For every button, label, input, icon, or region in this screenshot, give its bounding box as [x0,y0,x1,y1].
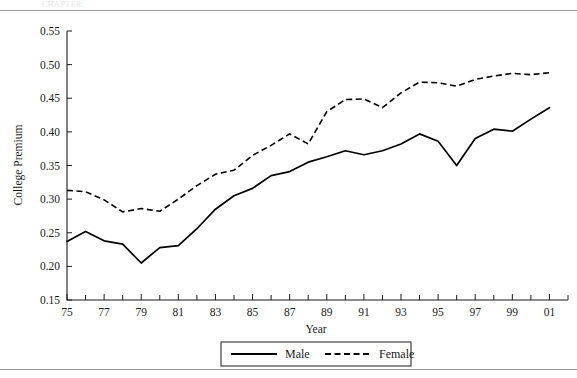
y-tick-label: 0.40 [40,126,60,138]
line-chart: 0.150.200.250.300.350.400.450.500.55 757… [0,0,577,378]
y-axis-title: College Premium [12,125,25,206]
ticks-group [67,31,568,300]
x-tick-label: 79 [135,306,147,318]
x-tick-label: 87 [284,306,296,318]
x-tick-label: 83 [210,306,222,318]
x-tick-label: 01 [544,306,556,318]
y-tick-label: 0.15 [40,294,60,306]
y-tick-label: 0.45 [40,92,60,104]
x-tick-label: 97 [469,306,481,318]
figure-container: CHAPTER 0.150.200.250.300.350.400.450.50… [0,0,577,378]
x-tick-label: 81 [173,306,185,318]
y-axis-tick-labels: 0.150.200.250.300.350.400.450.500.55 [40,25,60,306]
x-tick-label: 77 [98,306,110,318]
x-tick-label: 91 [358,306,370,318]
y-tick-label: 0.35 [40,160,60,172]
legend: Male Female [221,342,414,366]
y-tick-label: 0.55 [40,25,60,37]
y-tick-label: 0.20 [40,260,60,272]
x-tick-label: 89 [321,306,333,318]
x-tick-label: 85 [247,306,259,318]
x-tick-label: 99 [507,306,519,318]
x-tick-label: 75 [61,306,73,318]
x-axis-title: Year [305,323,326,335]
x-axis-tick-labels: 7577798183858789919395979901 [61,306,555,318]
y-tick-label: 0.25 [40,227,60,239]
legend-label-male: Male [285,347,310,361]
series-line-female [67,73,549,212]
y-tick-label: 0.30 [40,193,60,205]
axes-group [67,31,568,300]
series-line-male [67,108,549,263]
x-tick-label: 93 [395,306,407,318]
x-tick-label: 95 [432,306,444,318]
legend-label-female: Female [379,347,414,361]
y-tick-label: 0.50 [40,59,60,71]
